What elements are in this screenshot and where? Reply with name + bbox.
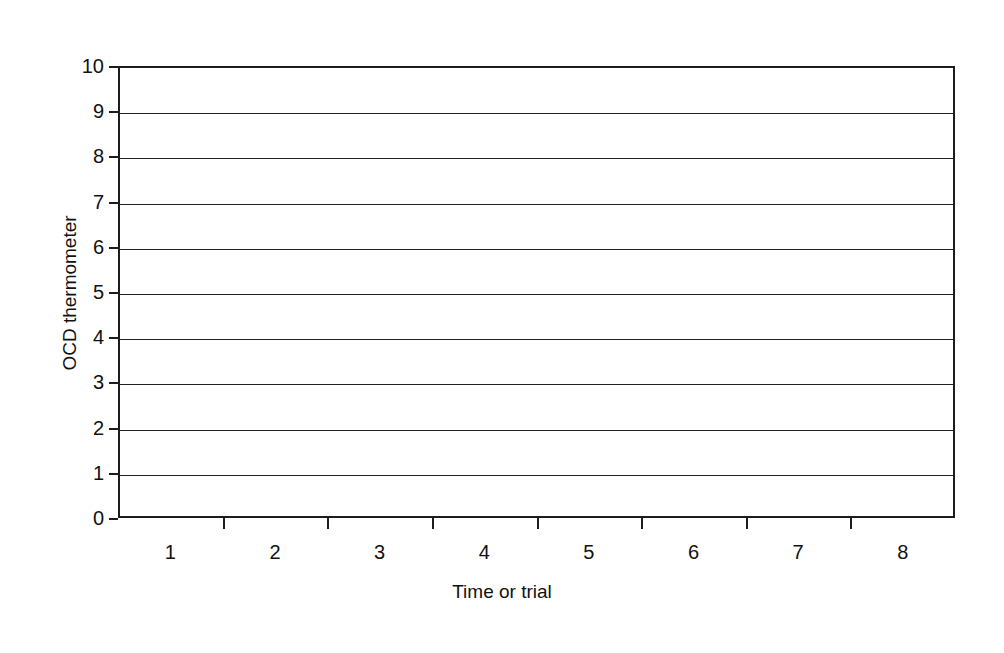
y-axis-tick (109, 337, 118, 339)
x-axis-tick-label: 5 (559, 540, 619, 564)
gridline (120, 294, 953, 295)
y-axis-tick-label: 0 (50, 508, 104, 528)
x-axis-tick-label: 3 (350, 540, 410, 564)
x-axis-tick-label: 8 (873, 540, 933, 564)
y-axis-tick (109, 247, 118, 249)
x-axis-tick-label: 7 (768, 540, 828, 564)
y-axis-title: OCD thermometer (59, 183, 81, 403)
x-axis-tick-label: 4 (454, 540, 514, 564)
x-axis-tick-label: 6 (663, 540, 723, 564)
y-axis-tick-label: 10 (50, 56, 104, 76)
y-axis-tick (109, 66, 118, 68)
y-axis-tick (109, 156, 118, 158)
y-axis-tick-label-text: 0 (64, 508, 104, 528)
x-axis-tick (223, 518, 225, 529)
y-axis-tick-label: 1 (50, 463, 104, 483)
y-axis-tick (109, 292, 118, 294)
y-axis-tick (109, 518, 118, 520)
y-axis-tick-label-text: 1 (64, 463, 104, 483)
gridline (120, 384, 953, 385)
y-axis-tick (109, 202, 118, 204)
y-axis-tick-label: 2 (50, 418, 104, 438)
x-axis-tick (537, 518, 539, 529)
x-axis-tick-label: 1 (140, 540, 200, 564)
gridline (120, 158, 953, 159)
y-axis-tick-label: 9 (50, 101, 104, 121)
chart-figure: 109876543210 12345678 OCD thermometer Ti… (0, 0, 1004, 653)
x-axis-title: Time or trial (0, 580, 1004, 604)
x-axis-tick (641, 518, 643, 529)
gridline (120, 430, 953, 431)
gridline (120, 339, 953, 340)
y-axis-tick-label-text: 2 (64, 418, 104, 438)
y-axis-tick (109, 111, 118, 113)
y-axis-tick-label: 8 (50, 146, 104, 166)
x-axis-tick (432, 518, 434, 529)
gridline (120, 204, 953, 205)
gridline (120, 475, 953, 476)
gridline (120, 249, 953, 250)
x-axis-tick (746, 518, 748, 529)
gridline (120, 113, 953, 114)
x-axis-tick (850, 518, 852, 529)
x-axis-tick (327, 518, 329, 529)
y-axis-tick-label-text: 9 (64, 101, 104, 121)
y-axis-tick (109, 382, 118, 384)
y-axis-tick-label-text: 8 (64, 146, 104, 166)
plot-area (118, 66, 955, 518)
y-axis-tick (109, 428, 118, 430)
x-axis-tick-label: 2 (245, 540, 305, 564)
y-axis-tick (109, 473, 118, 475)
y-axis-tick-label-text: 10 (64, 56, 104, 76)
